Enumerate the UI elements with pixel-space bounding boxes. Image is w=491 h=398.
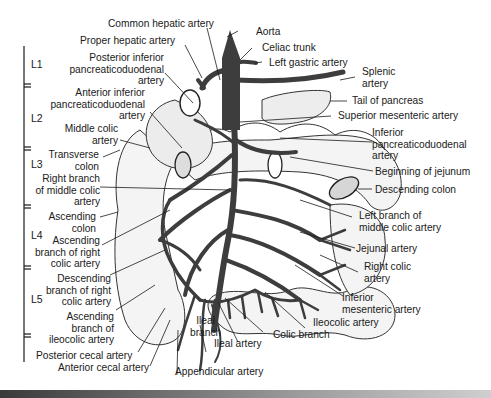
line: Middle colic bbox=[65, 123, 118, 135]
label-inferior-mesenteric-artery: Inferior mesenteric artery bbox=[342, 292, 421, 315]
label-ileal-branch: Ileal branch bbox=[190, 315, 221, 338]
label-right-colic-artery: Right colic artery bbox=[364, 261, 411, 284]
line: artery bbox=[372, 150, 467, 162]
label-superior-mesenteric-artery: Superior mesenteric artery bbox=[338, 110, 458, 122]
line: pancreaticoduodenal bbox=[372, 139, 467, 151]
label-posterior-inferior-pancreaticoduodenal-artery: Posterior inferior pancreaticoduodenal a… bbox=[69, 52, 164, 87]
line: ileocolic artery bbox=[49, 334, 114, 346]
label-common-hepatic-artery: Common hepatic artery bbox=[108, 18, 214, 30]
line: middle colic artery bbox=[359, 222, 441, 234]
label-transverse-colon: Transverse colon bbox=[48, 149, 99, 172]
line: Transverse bbox=[48, 149, 99, 161]
line: Posterior inferior bbox=[69, 52, 164, 64]
line: Inferior bbox=[372, 127, 467, 139]
line: artery bbox=[35, 196, 100, 208]
line: pancreaticoduodenal bbox=[50, 99, 145, 111]
label-right-branch-of-middle-colic-artery: Right branch of middle colic artery bbox=[35, 173, 100, 208]
level-l5: L5 bbox=[31, 293, 43, 305]
label-ascending-branch-of-right-colic-artery: Ascending branch of right colic artery bbox=[35, 235, 100, 270]
line: colon bbox=[48, 161, 99, 173]
anatomy-figure: L1 L2 L3 L4 L5 Common hepatic artery Pro… bbox=[0, 0, 491, 398]
label-ileal-artery: Ileal artery bbox=[214, 338, 262, 350]
line: Ascending bbox=[49, 311, 114, 323]
level-l2: L2 bbox=[31, 112, 43, 124]
line: Ileal bbox=[190, 315, 221, 327]
line: branch of bbox=[49, 323, 114, 335]
label-celiac-trunk: Celiac trunk bbox=[262, 42, 316, 54]
label-descending-branch-of-right-colic-artery: Descending branch of right colic artery bbox=[46, 273, 111, 308]
line: Splenic bbox=[362, 66, 395, 78]
level-l1: L1 bbox=[31, 58, 43, 70]
line: pancreaticoduodenal bbox=[69, 64, 164, 76]
line: colon bbox=[48, 223, 96, 235]
line: artery bbox=[362, 78, 395, 90]
level-l3: L3 bbox=[31, 158, 43, 170]
line: of middle colic bbox=[35, 185, 100, 197]
pancreas-tail bbox=[262, 90, 331, 124]
label-descending-colon: Descending colon bbox=[375, 184, 456, 196]
label-anterior-inferior-pancreaticoduodenal-artery: Anterior inferior pancreaticoduodenal ar… bbox=[50, 87, 145, 122]
label-aorta: Aorta bbox=[256, 26, 280, 38]
label-splenic-artery: Splenic artery bbox=[362, 66, 395, 89]
label-middle-colic-artery: Middle colic artery bbox=[65, 123, 118, 146]
label-ascending-branch-of-ileocolic-artery: Ascending branch of ileocolic artery bbox=[49, 311, 114, 346]
label-posterior-cecal-artery: Posterior cecal artery bbox=[36, 350, 132, 362]
line: Anterior inferior bbox=[50, 87, 145, 99]
line: artery bbox=[69, 75, 164, 87]
line: colic artery bbox=[35, 258, 100, 270]
label-proper-hepatic-artery: Proper hepatic artery bbox=[80, 35, 175, 47]
label-tail-of-pancreas: Tail of pancreas bbox=[352, 95, 423, 107]
label-left-branch-of-middle-colic-artery: Left branch of middle colic artery bbox=[359, 210, 441, 233]
label-anterior-cecal-artery: Anterior cecal artery bbox=[58, 362, 149, 374]
label-appendicular-artery: Appendicular artery bbox=[175, 366, 263, 378]
line: branch of right bbox=[35, 247, 100, 259]
line: mesenteric artery bbox=[342, 304, 421, 316]
line: artery bbox=[364, 273, 411, 285]
vertebral-ruler bbox=[24, 46, 31, 362]
line: branch of right bbox=[46, 285, 111, 297]
line: Right colic bbox=[364, 261, 411, 273]
line: Right branch bbox=[35, 173, 100, 185]
line: artery bbox=[65, 135, 118, 147]
line: colic artery bbox=[46, 296, 111, 308]
label-jejunal-artery: Jejunal artery bbox=[356, 243, 417, 255]
label-ileocolic-artery: Ileocolic artery bbox=[313, 317, 379, 329]
line: branch bbox=[190, 327, 221, 339]
label-beginning-of-jejunum: Beginning of jejunum bbox=[375, 166, 470, 178]
line: Descending bbox=[46, 273, 111, 285]
label-ascending-colon: Ascending colon bbox=[48, 211, 96, 234]
line: Ascending bbox=[35, 235, 100, 247]
label-inferior-pancreaticoduodenal-artery: Inferior pancreaticoduodenal artery bbox=[372, 127, 467, 162]
line: Inferior bbox=[342, 292, 421, 304]
label-left-gastric-artery: Left gastric artery bbox=[269, 57, 348, 69]
label-colic-branch: Colic branch bbox=[273, 329, 330, 341]
line: Left branch of bbox=[359, 210, 441, 222]
bottom-edge-bar bbox=[0, 390, 491, 398]
line: artery bbox=[50, 110, 145, 122]
line: Ascending bbox=[48, 211, 96, 223]
